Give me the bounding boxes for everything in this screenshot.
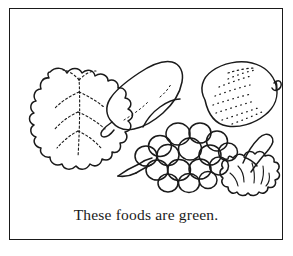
page-caption: These foods are green. <box>9 206 283 224</box>
coloring-page: These foods are green. <box>0 0 293 256</box>
